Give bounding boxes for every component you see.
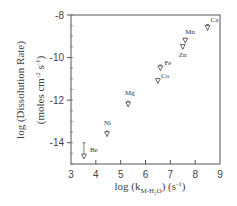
triangle-down-icon — [183, 38, 188, 43]
x-axis-title: log (kM-H2O) (s-1) — [114, 180, 185, 196]
y-tick-label: -12 — [50, 95, 65, 106]
scatter-chart: 3456789 -8-10-12-14 BeNiMgCoFeZnMnCa log… — [0, 0, 237, 206]
data-point-mn: Mn — [183, 28, 196, 43]
point-label: Fe — [164, 59, 171, 67]
data-point-be: Be — [82, 143, 98, 159]
triangle-down-icon — [180, 45, 185, 50]
y-axis-title-line2: (moles cm-2 s-1) — [34, 55, 47, 124]
triangle-down-icon — [126, 102, 131, 107]
data-point-mg: Mg — [125, 89, 135, 106]
data-point-zn: Zn — [179, 45, 187, 59]
triangle-down-icon — [158, 66, 163, 71]
y-axis: -8-10-12-14 — [50, 10, 71, 149]
point-label: Ni — [104, 119, 111, 127]
x-tick-label: 4 — [93, 169, 99, 180]
x-tick-label: 6 — [143, 169, 149, 180]
data-point-ni: Ni — [104, 119, 111, 136]
triangle-down-icon — [205, 25, 210, 30]
plot-border — [71, 15, 220, 164]
point-label: Mg — [125, 89, 135, 97]
y-tick-label: -10 — [50, 52, 65, 63]
y-tick-label: -14 — [50, 137, 65, 148]
data-points: BeNiMgCoFeZnMnCa — [82, 16, 220, 159]
x-axis: 3456789 — [68, 160, 223, 180]
y-axis-title-line1: log (Dissolution Rate) — [14, 41, 27, 139]
x-tick-label: 3 — [68, 169, 74, 180]
x-tick-label: 9 — [217, 169, 223, 180]
point-label: Be — [90, 146, 98, 154]
x-tick-label: 5 — [118, 169, 124, 180]
data-point-ca: Ca — [205, 16, 219, 31]
x-tick-label: 7 — [168, 169, 174, 180]
triangle-down-icon — [82, 154, 87, 159]
triangle-down-icon — [105, 132, 110, 137]
plot-frame — [71, 15, 220, 164]
point-label: Zn — [179, 51, 187, 59]
point-label: Co — [161, 72, 170, 80]
point-label: Ca — [211, 16, 220, 24]
y-tick-label: -8 — [55, 10, 64, 21]
x-tick-label: 8 — [192, 169, 198, 180]
data-point-co: Co — [156, 72, 170, 83]
data-point-fe: Fe — [158, 59, 171, 70]
point-label: Mn — [185, 28, 195, 36]
triangle-down-icon — [156, 79, 161, 84]
